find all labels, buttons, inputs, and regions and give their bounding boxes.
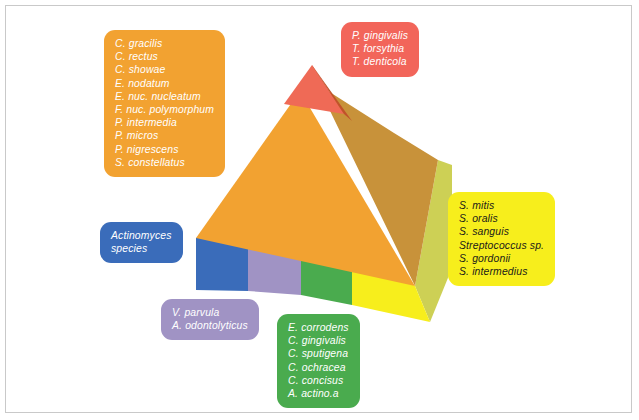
orange-complex-callout[interactable]: C. gracilis C. rectus C. showae E. nodat…	[104, 30, 225, 177]
red-complex-callout[interactable]: P. gingivalis T. forsythia T. denticola	[341, 22, 419, 77]
species-label: A. actino.a	[288, 387, 349, 400]
species-label: species	[111, 242, 172, 255]
purple-complex-callout[interactable]: V. parvula A. odontolyticus	[161, 299, 259, 340]
species-label: E. nuc. nucleatum	[115, 90, 214, 103]
figure-root: C. gracilis C. rectus C. showae E. nodat…	[0, 0, 639, 420]
species-label: S. gordonii	[459, 252, 544, 265]
pyramid-stage: C. gracilis C. rectus C. showae E. nodat…	[0, 0, 639, 420]
blue-complex-callout[interactable]: Actinomyces species	[100, 222, 183, 263]
species-label: P. gingivalis	[352, 29, 408, 42]
species-label: P. micros	[115, 129, 214, 142]
species-label: E. nodatum	[115, 77, 214, 90]
species-label: C. rectus	[115, 50, 214, 63]
species-label: C. ochracea	[288, 361, 349, 374]
species-label: S. sanguis	[459, 225, 544, 238]
species-label: T. denticola	[352, 55, 408, 68]
species-label: P. intermedia	[115, 116, 214, 129]
species-label: Streptococcus sp.	[459, 239, 544, 252]
species-label: C. sputigena	[288, 347, 349, 360]
green-complex-callout[interactable]: E. corrodens C. gingivalis C. sputigena …	[277, 314, 360, 408]
species-label: S. oralis	[459, 212, 544, 225]
species-label: C. concisus	[288, 374, 349, 387]
species-label: E. corrodens	[288, 321, 349, 334]
species-label: T. forsythia	[352, 42, 408, 55]
species-label: C. gingivalis	[288, 334, 349, 347]
species-label: S. intermedius	[459, 265, 544, 278]
species-label: S. constellatus	[115, 156, 214, 169]
species-label: C. gracilis	[115, 37, 214, 50]
species-label: P. nigrescens	[115, 143, 214, 156]
yellow-complex-callout[interactable]: S. mitis S. oralis S. sanguis Streptococ…	[448, 192, 555, 286]
species-label: V. parvula	[172, 306, 248, 319]
species-label: Actinomyces	[111, 229, 172, 242]
species-label: S. mitis	[459, 199, 544, 212]
species-label: A. odontolyticus	[172, 319, 248, 332]
species-label: F. nuc. polymorphum	[115, 103, 214, 116]
species-label: C. showae	[115, 63, 214, 76]
